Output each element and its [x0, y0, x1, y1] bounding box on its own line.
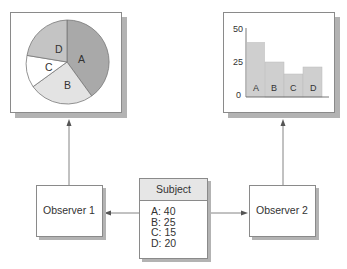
observer2-label: Observer 2: [256, 204, 308, 216]
pie-label-b: B: [64, 79, 71, 91]
y-tick-50: 50: [233, 24, 243, 34]
pie-label-c: C: [45, 61, 53, 73]
pie-chart: [26, 20, 109, 104]
pie-slice-d: [27, 20, 67, 62]
bar-label-d: D: [310, 83, 317, 93]
pie-label-a: A: [78, 53, 85, 65]
bar-label-a: A: [253, 83, 259, 93]
observer1-label: Observer 1: [43, 204, 95, 216]
observer1-box: Observer 1: [36, 185, 103, 237]
subject-value-a: A: 40: [151, 206, 176, 217]
subject-value-d: D: 20: [151, 238, 176, 249]
arrow-up-icon: [67, 119, 72, 126]
subject-title: Subject: [140, 179, 207, 201]
arrow-up-icon: [281, 119, 286, 126]
y-tick-25: 25: [233, 57, 243, 67]
bar-label-b: B: [271, 83, 277, 93]
subject-box: Subject A: 40 B: 25 C: 15 D: 20: [139, 178, 208, 259]
subject-value-c: C: 15: [151, 227, 176, 238]
y-tick-0: 0: [236, 90, 241, 100]
observer2-box: Observer 2: [249, 185, 316, 237]
subject-values: A: 40 B: 25 C: 15 D: 20: [151, 206, 176, 248]
pie-label-d: D: [55, 43, 63, 55]
bar-label-c: C: [290, 83, 297, 93]
arrow-right-icon: [241, 211, 248, 216]
